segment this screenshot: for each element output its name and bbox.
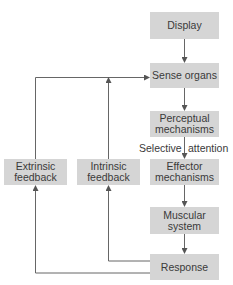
muscular-system-box: Muscular system	[150, 207, 219, 234]
sense-organs-label: Sense organs	[152, 70, 217, 81]
intrinsic-label-line2: feedback	[87, 172, 130, 183]
perceptual-mechanisms-box: Perceptual mechanisms	[150, 111, 219, 137]
attention-label: attention	[188, 143, 228, 154]
effector-label-line2: mechanisms	[155, 172, 214, 183]
muscular-label-line1: Muscular	[163, 210, 206, 221]
sense-organs-box: Sense organs	[150, 63, 219, 88]
response-label: Response	[161, 262, 208, 273]
extrinsic-feedback-box: Extrinsic feedback	[4, 159, 67, 185]
response-box: Response	[150, 254, 219, 280]
extrinsic-label-line2: feedback	[14, 172, 57, 183]
display-box: Display	[150, 12, 219, 39]
perceptual-label-line2: mechanisms	[155, 124, 214, 135]
display-label: Display	[167, 20, 201, 31]
selective-label: Selective	[139, 143, 182, 154]
intrinsic-feedback-box: Intrinsic feedback	[77, 159, 140, 185]
effector-mechanisms-box: Effector mechanisms	[150, 159, 219, 185]
muscular-label-line2: system	[168, 221, 201, 232]
